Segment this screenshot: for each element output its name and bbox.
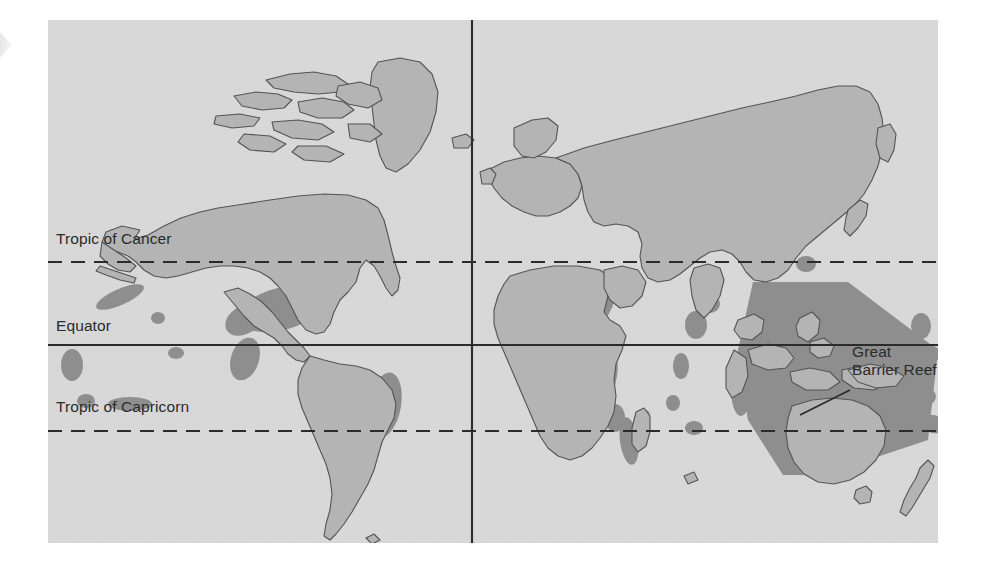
reef-revillagigedo — [151, 312, 165, 324]
reef-galapagos-n — [168, 347, 184, 359]
reef-seychelles — [673, 353, 689, 379]
reef-mascarene — [666, 395, 680, 411]
reef-ryukyu — [796, 256, 816, 272]
world-map-panel — [48, 20, 938, 543]
page-edge-arrow-icon — [0, 28, 12, 62]
page-root: Tropic of Cancer Equator Tropic of Capri… — [0, 0, 991, 571]
label-equator: Equator — [56, 317, 111, 335]
world-map-svg — [48, 20, 938, 543]
reef-micronesia — [911, 313, 931, 339]
label-tropic-of-capricorn: Tropic of Capricorn — [56, 398, 189, 416]
label-great-barrier-reef: Great Barrier Reef — [852, 343, 937, 380]
reef-line-islands — [61, 349, 83, 381]
reef-chagos — [685, 421, 703, 435]
label-tropic-of-cancer: Tropic of Cancer — [56, 230, 172, 248]
